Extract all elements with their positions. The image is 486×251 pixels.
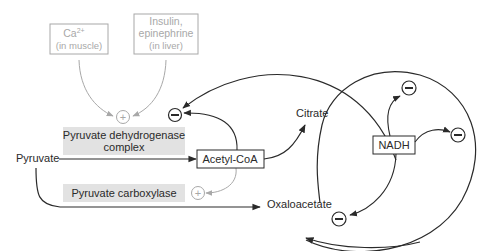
inhibition-symbol-upper <box>402 81 416 95</box>
calcium-regulator: Ca2+ (in muscle) <box>50 24 108 54</box>
activation-symbol-pc: + <box>192 187 205 200</box>
inhibition-symbol-pdh <box>169 109 182 122</box>
hormone-regulator: Insulin, epinephrine (in liver) <box>134 14 198 54</box>
inhibition-symbol-lower <box>332 212 346 226</box>
svg-text:(in muscle): (in muscle) <box>56 40 102 51</box>
nadh-box: NADH <box>373 136 415 154</box>
svg-text:Pyruvate carboxylase: Pyruvate carboxylase <box>71 187 176 199</box>
pyruvate-metabolism-diagram: Ca2+ (in muscle) Insulin, epinephrine (i… <box>0 0 486 251</box>
svg-text:Pyruvate dehydrogenase: Pyruvate dehydrogenase <box>63 129 185 141</box>
inhibition-symbol-right <box>451 128 465 142</box>
pdh-complex-label: Pyruvate dehydrogenase complex <box>63 127 185 155</box>
svg-text:Acetyl-CoA: Acetyl-CoA <box>202 153 258 165</box>
svg-text:+: + <box>195 187 201 199</box>
tca-cycle-circle <box>306 72 476 251</box>
citrate-label: Citrate <box>296 107 328 119</box>
svg-text:+: + <box>120 111 126 123</box>
svg-text:NADH: NADH <box>378 139 409 151</box>
svg-text:(in liver): (in liver) <box>149 40 183 51</box>
acetyl-coa-box: Acetyl-CoA <box>197 150 264 168</box>
oxaloacetate-label: Oxaloacetate <box>267 198 332 210</box>
activation-symbol-pdh: + <box>117 111 130 124</box>
svg-text:Insulin,: Insulin, <box>149 15 182 27</box>
svg-text:epinephrine: epinephrine <box>139 27 194 39</box>
pyruvate-carboxylase-label: Pyruvate carboxylase <box>63 184 185 202</box>
pyruvate-label: Pyruvate <box>16 152 59 164</box>
svg-text:complex: complex <box>104 141 145 153</box>
